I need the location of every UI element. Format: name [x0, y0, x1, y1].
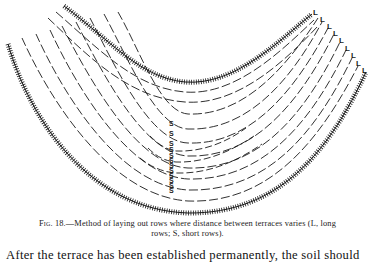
short-row-markers: S S S S S S S S S S S S [169, 120, 174, 194]
S-marker: S [169, 187, 174, 194]
figure-caption: Fig. 18.—Method of laying out rows where… [4, 219, 371, 239]
short-rows [140, 128, 262, 173]
L-marker: L [333, 29, 338, 38]
caption-text-1: —Method of laying out rows where distanc… [66, 219, 336, 228]
L-marker: L [345, 44, 350, 53]
S-marker: S [169, 130, 174, 137]
figure-number: Fig. 18. [39, 219, 66, 228]
terrace-row-diagram: L L L L L L L L L S S S S S S S S S S S … [0, 0, 375, 218]
body-paragraph-line: After the terrace has been established p… [6, 248, 375, 262]
L-marker: L [313, 8, 318, 17]
caption-line-1: Fig. 18.—Method of laying out rows where… [4, 219, 371, 229]
upper-terrace [64, 6, 312, 82]
L-marker: L [327, 22, 332, 31]
L-marker: L [362, 66, 367, 75]
L-marker: L [339, 36, 344, 45]
caption-line-2: rows; S, short rows). [4, 229, 371, 239]
S-marker: S [169, 120, 174, 127]
L-marker: L [356, 59, 361, 68]
L-marker: L [320, 15, 325, 24]
